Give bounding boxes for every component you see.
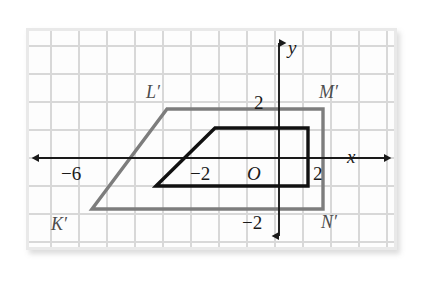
preimage-quadrilateral-klmn <box>156 128 308 186</box>
label-l-prime: L′ <box>146 83 160 101</box>
y-axis-label: y <box>288 38 296 57</box>
y-tick-2: 2 <box>254 93 264 112</box>
geometry-layer <box>29 31 394 247</box>
coordinate-plane-figure: x y −6 −2 2 2 −2 O L′ M′ K′ N′ <box>0 0 426 281</box>
origin-label: O <box>247 164 261 183</box>
x-tick-minus-6: −6 <box>61 164 81 183</box>
x-tick-2: 2 <box>313 164 323 183</box>
plot-frame: x y −6 −2 2 2 −2 O L′ M′ K′ N′ <box>26 28 397 250</box>
label-n-prime: N′ <box>321 213 337 231</box>
y-tick-minus-2: −2 <box>242 213 262 232</box>
label-k-prime: K′ <box>51 215 67 233</box>
x-tick-minus-2: −2 <box>190 164 210 183</box>
x-axis-label: x <box>347 147 355 166</box>
label-m-prime: M′ <box>319 83 338 101</box>
image-quadrilateral-k-prime-l-prime-m-prime-n-prime <box>92 109 323 209</box>
